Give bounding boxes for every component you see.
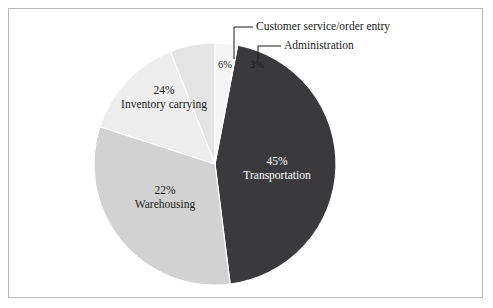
pie-chart-figure: Customer service/order entry Administrat… [0,0,493,308]
slice-percent-inventory-carrying: 24% [104,84,224,98]
slice-percent-warehousing: 22% [110,184,220,198]
slice-percent-customer-service: 6% [218,59,232,70]
pie-chart-canvas [0,0,493,308]
callout-label-customer-service: Customer service/order entry [256,20,390,32]
slice-category-inventory-carrying: Inventory carrying [104,98,224,112]
slice-label-warehousing: 22% Warehousing [110,184,220,211]
slice-percent-transportation: 45% [222,155,332,169]
callout-label-administration: Administration [284,39,354,51]
slice-label-transportation: 45% Transportation [222,155,332,182]
slice-category-transportation: Transportation [222,169,332,183]
slice-category-warehousing: Warehousing [110,198,220,212]
slice-percent-administration: 3% [250,59,264,70]
slice-label-inventory-carrying: 24% Inventory carrying [104,84,224,111]
